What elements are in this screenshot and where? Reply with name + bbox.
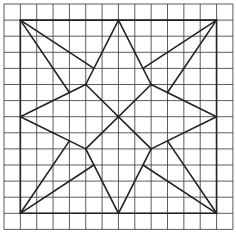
pattern-segment — [20, 165, 94, 213]
pattern-segment — [20, 20, 69, 92]
pattern-segment — [168, 141, 217, 213]
pattern-segment — [168, 20, 217, 92]
pattern-segment — [20, 141, 69, 213]
star-diagram — [0, 0, 236, 240]
pattern-segment — [143, 20, 217, 68]
pattern-segment — [20, 20, 94, 68]
pattern-segment — [143, 165, 217, 213]
